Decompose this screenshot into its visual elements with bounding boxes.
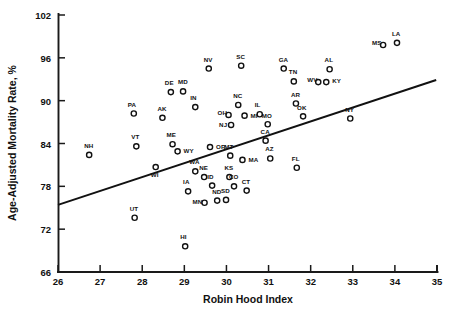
data-point: HI	[180, 233, 188, 249]
y-tick-label: 78	[40, 181, 51, 192]
point-label: AZ	[265, 145, 274, 152]
point-label: LA	[392, 30, 401, 37]
point-label: MO	[262, 112, 272, 119]
data-point: OH	[218, 109, 232, 118]
point-label: NJ	[219, 121, 228, 128]
data-point: CO	[229, 173, 239, 189]
point-label: AR	[291, 91, 301, 98]
point-marker	[206, 66, 211, 71]
point-marker	[242, 113, 247, 118]
data-point: KY	[324, 77, 342, 85]
point-label: HI	[180, 233, 187, 240]
point-marker	[281, 66, 286, 71]
point-label: KS	[224, 164, 233, 171]
point-label: OH	[218, 109, 228, 116]
point-label: IA	[183, 178, 190, 185]
data-points-group: NHUTPAVTAKDEWIMDMEWYINNVHIIAWANEMNIDNDSD…	[84, 30, 401, 249]
point-marker	[132, 215, 137, 220]
point-marker	[207, 144, 212, 149]
point-label: SD	[221, 187, 230, 194]
x-axis-title: Robin Hood Index	[203, 293, 293, 305]
point-label: NC	[233, 92, 243, 99]
point-marker	[324, 80, 329, 85]
data-point: AK	[157, 105, 167, 121]
point-label: UT	[130, 205, 139, 212]
data-point: NH	[84, 142, 94, 158]
data-point: OK	[297, 104, 307, 119]
x-tick-group: 26272829303132333435	[53, 265, 443, 287]
y-tick-label: 72	[40, 224, 51, 235]
data-point: MA	[240, 156, 259, 163]
data-point: GA	[279, 56, 289, 72]
data-point: MI	[242, 112, 258, 119]
data-point: WV	[307, 76, 321, 85]
data-point: AL	[325, 56, 334, 72]
x-tick-label: 30	[221, 276, 232, 287]
point-marker	[193, 169, 198, 174]
point-label: WV	[307, 76, 318, 83]
data-point: AZ	[265, 145, 274, 161]
point-label: MS	[372, 39, 381, 46]
y-tick-label: 90	[40, 96, 51, 107]
point-marker	[223, 197, 228, 202]
point-marker	[175, 149, 180, 154]
point-marker	[244, 188, 249, 193]
point-label: PA	[128, 101, 137, 108]
point-label: KY	[332, 77, 342, 84]
point-marker	[231, 184, 236, 189]
point-marker	[294, 165, 299, 170]
point-label: ID	[207, 173, 214, 180]
point-label: GA	[279, 56, 289, 63]
data-point: PA	[128, 101, 137, 117]
point-marker	[202, 200, 207, 205]
point-marker	[268, 156, 273, 161]
regression-line	[58, 80, 436, 205]
x-tick-label: 33	[347, 276, 358, 287]
point-marker	[193, 104, 198, 109]
point-marker	[160, 115, 165, 120]
point-marker	[394, 40, 399, 45]
x-tick-label: 32	[305, 276, 316, 287]
point-label: MN	[193, 198, 203, 205]
point-marker	[202, 174, 207, 179]
point-label: SC	[236, 53, 245, 60]
data-point: SD	[221, 187, 230, 203]
point-marker	[153, 164, 158, 169]
point-label: NV	[204, 56, 214, 63]
point-label: OK	[297, 104, 307, 111]
point-marker	[186, 189, 191, 194]
data-point: WY	[175, 147, 195, 154]
data-point: CT	[242, 178, 251, 194]
point-label: IN	[190, 94, 197, 101]
data-point: IN	[190, 94, 198, 110]
point-marker	[236, 102, 241, 107]
y-tick-label: 84	[40, 139, 51, 150]
data-point: MO	[262, 112, 272, 127]
point-marker	[327, 67, 332, 72]
point-marker	[263, 138, 268, 143]
point-marker	[215, 198, 220, 203]
x-tick-label: 26	[53, 276, 64, 287]
data-point: VT	[131, 133, 139, 149]
y-tick-label: 102	[35, 10, 51, 21]
x-tick-label: 35	[432, 276, 443, 287]
point-label: TN	[289, 68, 298, 75]
point-marker	[131, 111, 136, 116]
data-point: FL	[292, 155, 300, 171]
point-marker	[228, 153, 233, 158]
point-marker	[265, 122, 270, 127]
data-point: DE	[165, 79, 174, 95]
data-point: ME	[167, 131, 176, 147]
point-label: NE	[199, 164, 208, 171]
data-point: NV	[204, 56, 214, 72]
data-point: OR	[207, 143, 226, 150]
x-tick-label: 34	[390, 276, 401, 287]
point-marker	[183, 244, 188, 249]
data-point: MD	[178, 78, 188, 94]
point-label: MA	[248, 156, 258, 163]
point-label: WY	[184, 147, 195, 154]
y-tick-group: 667278849096102	[35, 10, 65, 278]
point-marker	[87, 152, 92, 157]
point-label: AK	[157, 105, 167, 112]
y-tick-label: 96	[40, 53, 51, 64]
